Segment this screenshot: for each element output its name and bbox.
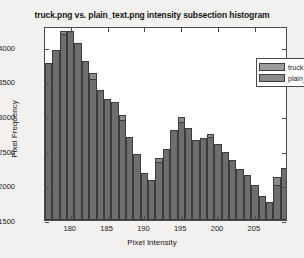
histogram-bar	[170, 130, 177, 220]
legend-label: plain_text.png	[288, 75, 304, 82]
histogram-bar	[119, 120, 126, 220]
x-tick-mark	[108, 216, 109, 220]
histogram-bar	[74, 43, 81, 220]
histogram-bar	[133, 154, 140, 220]
plot-area: truck.png plain_text.png	[44, 27, 287, 221]
histogram-bar	[244, 175, 251, 220]
x-tick-mark	[218, 28, 219, 32]
y-tick-label: 2000	[0, 182, 15, 191]
x-tick-mark	[108, 28, 109, 32]
histogram-bar	[45, 63, 52, 220]
histogram-bar	[126, 137, 133, 220]
x-tick-label: 205	[239, 224, 269, 233]
y-tick-label: 1500	[0, 217, 15, 226]
chart-title: truck.png vs. plain_text.png intensity s…	[0, 10, 304, 20]
x-tick-label: 180	[55, 224, 85, 233]
histogram-bar	[185, 128, 192, 220]
y-tick-label: 3000	[0, 113, 15, 122]
y-tick-mark	[45, 222, 49, 223]
histogram-bar	[281, 168, 286, 220]
bar-group	[45, 28, 286, 220]
y-tick-mark	[282, 222, 286, 223]
histogram-bar	[251, 185, 258, 220]
histogram-bar	[141, 173, 148, 220]
x-tick-mark	[181, 28, 182, 32]
x-tick-mark	[71, 28, 72, 32]
y-tick-mark	[45, 83, 49, 84]
x-tick-mark	[255, 216, 256, 220]
y-tick-mark	[282, 49, 286, 50]
x-tick-label: 200	[202, 224, 232, 233]
legend-item: plain_text.png	[259, 73, 304, 83]
x-tick-label: 195	[165, 224, 195, 233]
legend: truck.png plain_text.png	[256, 58, 304, 87]
histogram-bar	[104, 99, 111, 220]
histogram-bar	[200, 138, 207, 220]
x-tick-mark	[255, 28, 256, 32]
histogram-bar	[67, 31, 74, 220]
y-tick-label: 4000	[0, 43, 15, 52]
y-tick-mark	[45, 118, 49, 119]
x-tick-mark	[144, 216, 145, 220]
legend-label: truck.png	[288, 64, 304, 71]
histogram-bar	[111, 102, 118, 220]
histogram-bar	[178, 122, 185, 220]
y-tick-label: 3500	[0, 78, 15, 87]
x-tick-label: 190	[128, 224, 158, 233]
y-tick-label: 2500	[0, 147, 15, 156]
y-tick-mark	[282, 118, 286, 119]
x-tick-label: 185	[92, 224, 122, 233]
histogram-bar	[266, 202, 273, 220]
legend-swatch-icon	[259, 74, 285, 82]
x-tick-mark	[218, 216, 219, 220]
histogram-bar	[60, 34, 67, 220]
histogram-bar	[97, 90, 104, 220]
histogram-bar	[89, 79, 96, 220]
histogram-bar	[192, 140, 199, 220]
x-tick-mark	[181, 216, 182, 220]
y-tick-mark	[282, 187, 286, 188]
histogram-bar	[148, 180, 155, 220]
y-tick-mark	[282, 153, 286, 154]
histogram-bar	[52, 50, 59, 220]
histogram-figure: truck.png vs. plain_text.png intensity s…	[0, 0, 304, 258]
legend-item: truck.png	[259, 62, 304, 72]
y-tick-mark	[45, 187, 49, 188]
histogram-bar	[82, 61, 89, 220]
y-tick-mark	[45, 49, 49, 50]
x-tick-mark	[144, 28, 145, 32]
histogram-bar	[163, 149, 170, 220]
histogram-bar	[155, 162, 162, 220]
histogram-bar	[229, 160, 236, 220]
histogram-bar	[259, 196, 266, 220]
legend-swatch-icon	[259, 63, 285, 71]
histogram-bar	[236, 169, 243, 220]
x-tick-mark	[71, 216, 72, 220]
histogram-bar	[214, 144, 221, 220]
x-axis-title: Pixel Intensity	[0, 238, 304, 247]
histogram-bar	[273, 185, 280, 220]
histogram-bar	[222, 152, 229, 220]
y-tick-mark	[45, 153, 49, 154]
histogram-bar	[207, 137, 214, 220]
